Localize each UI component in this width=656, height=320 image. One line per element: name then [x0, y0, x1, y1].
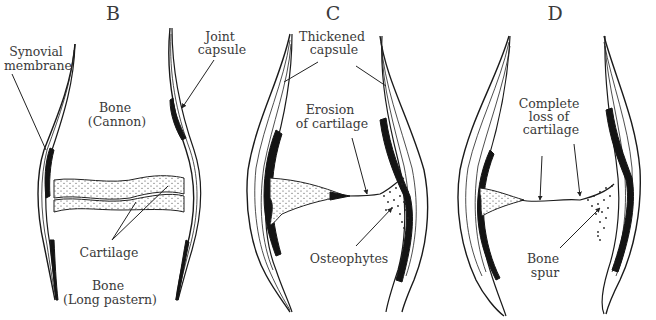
erosion-of-cartilage-label: Erosion of cartilage: [296, 102, 368, 131]
panel-c-right-capsule: [380, 36, 428, 312]
panel-b: B Synovial membrane Joint capsule: [4, 2, 246, 307]
panel-c: C Thick: [247, 2, 428, 312]
panel-d-right-capsule: [602, 36, 640, 314]
bone-spur-label: Bone spur: [527, 251, 563, 280]
erosion-leader: [352, 138, 367, 194]
thickened-capsule-label: Thickened capsule: [299, 29, 369, 57]
synovial-leader: [12, 74, 46, 150]
synovial-membrane-label: Synovial membrane: [4, 44, 72, 73]
loss-leader-left: [540, 156, 542, 200]
panel-d-title: D: [547, 2, 562, 24]
thickened-capsule-leader-left: [284, 62, 318, 82]
panel-b-title: B: [106, 2, 120, 24]
thickened-capsule-leader-right: [356, 66, 386, 86]
panel-c-cartilage-remnant: [270, 178, 346, 224]
joint-degeneration-diagram: B Synovial membrane Joint capsule: [0, 0, 656, 320]
complete-loss-of-cartilage-label: Complete loss of cartilage: [519, 96, 584, 137]
panel-c-title: C: [326, 2, 341, 24]
loss-leader-right: [574, 144, 580, 196]
panel-c-cartilage-tip: [330, 192, 350, 200]
bone-spur-leader: [560, 208, 600, 248]
panel-d: D Complete: [458, 2, 640, 316]
panel-c-joint-line: [348, 178, 404, 196]
panel-c-left-capsule: [247, 34, 292, 312]
bone-cannon-label: Bone (Cannon): [88, 100, 146, 129]
joint-capsule-label: Joint capsule: [198, 29, 246, 57]
panel-d-left-capsule: [458, 36, 510, 316]
bone-long-pastern-label: Bone (Long pastern): [63, 278, 157, 307]
panel-b-right-capsule: [169, 28, 201, 300]
panel-d-cartilage-remnant: [480, 188, 524, 216]
cartilage-label: Cartilage: [80, 245, 139, 260]
panel-b-left-capsule: [38, 44, 75, 300]
osteophytes-leader: [356, 208, 392, 246]
joint-capsule-leader: [182, 60, 214, 108]
osteophytes-label: Osteophytes: [310, 251, 389, 266]
